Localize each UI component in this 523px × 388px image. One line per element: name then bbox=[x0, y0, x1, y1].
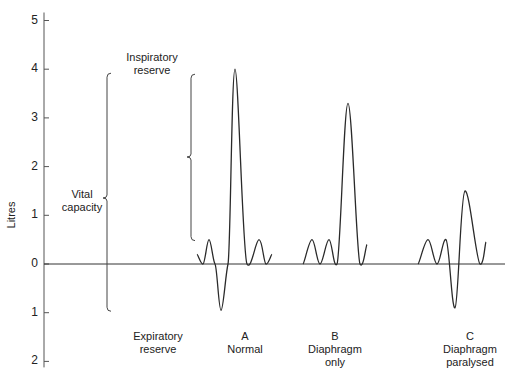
trace-b-letter: B bbox=[295, 330, 375, 343]
trace-c-line1: Diaphragm bbox=[430, 343, 510, 356]
trace-a-name: Normal bbox=[215, 343, 275, 356]
trace-b-diaphragm-only bbox=[303, 103, 367, 265]
y-tick-label: 4 bbox=[24, 62, 38, 74]
trace-a-letter: A bbox=[215, 330, 275, 343]
vital-capacity-line1: Vital bbox=[52, 188, 112, 201]
trace-c-diaphragm-paralysed bbox=[418, 191, 486, 308]
y-tick-label: 1 bbox=[24, 208, 38, 220]
y-tick-label: 3 bbox=[24, 111, 38, 123]
y-tick-label: 2 bbox=[24, 160, 38, 172]
expiratory-reserve-label: Expiratory reserve bbox=[118, 330, 198, 356]
inspiratory-reserve-label: Inspiratory reserve bbox=[112, 51, 192, 77]
vital-capacity-label: Vital capacity bbox=[52, 188, 112, 214]
y-tick-label: 5 bbox=[24, 14, 38, 26]
vital-capacity-line2: capacity bbox=[52, 201, 112, 214]
trace-c-line2: paralysed bbox=[430, 356, 510, 369]
trace-c-letter: C bbox=[430, 330, 510, 343]
trace-b-line2: only bbox=[295, 356, 375, 369]
inspiratory-reserve-line1: Inspiratory bbox=[112, 51, 192, 64]
y-axis bbox=[44, 13, 49, 368]
trace-b-label: B Diaphragm only bbox=[295, 330, 375, 369]
y-tick-label: 0 bbox=[24, 257, 38, 269]
expiratory-reserve-line1: Expiratory bbox=[118, 330, 198, 343]
y-tick-label: 1 bbox=[24, 306, 38, 318]
braces bbox=[103, 73, 195, 311]
inspiratory-reserve-line2: reserve bbox=[112, 64, 192, 77]
y-axis-label: Litres bbox=[5, 202, 17, 229]
inspiratory-reserve-brace bbox=[187, 74, 195, 240]
trace-a-label: A Normal bbox=[215, 330, 275, 356]
trace-a-normal bbox=[197, 69, 272, 310]
traces bbox=[197, 69, 486, 310]
y-tick-label: 2 bbox=[24, 354, 38, 366]
trace-c-label: C Diaphragm paralysed bbox=[430, 330, 510, 369]
expiratory-reserve-line2: reserve bbox=[118, 343, 198, 356]
trace-b-line1: Diaphragm bbox=[295, 343, 375, 356]
